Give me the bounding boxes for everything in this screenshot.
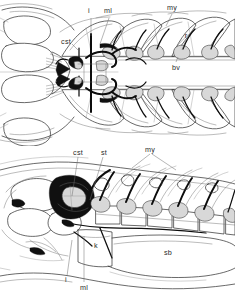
- panel-top-dorsal-view: i ml my cst r bv: [0, 0, 235, 146]
- panel-bottom-lateral-view: cst st my k sb i ml: [0, 146, 235, 292]
- vertebral-centra: [96, 206, 235, 235]
- ventral-contour: [0, 268, 235, 289]
- label-cst-bottom: cst: [73, 148, 83, 157]
- label-st-bottom: st: [101, 148, 107, 157]
- label-sb-bottom: sb: [164, 248, 172, 257]
- label-my-top: my: [167, 3, 177, 12]
- swim-bladder: [108, 235, 235, 281]
- label-ml-bottom: ml: [80, 283, 88, 292]
- label-ml-top: ml: [104, 6, 112, 15]
- cst-dark-mass: [49, 175, 94, 219]
- label-i-bottom: i: [65, 275, 67, 284]
- anatomical-figure: i ml my cst r bv: [0, 0, 235, 292]
- label-my-bottom: my: [145, 146, 155, 154]
- label-r-top: r: [185, 31, 188, 40]
- label-cst-top: cst: [61, 37, 71, 46]
- cranial-region: [0, 4, 74, 146]
- label-i-top: i: [88, 6, 90, 15]
- label-bv-top: bv: [172, 63, 180, 72]
- label-k-bottom: k: [94, 241, 98, 250]
